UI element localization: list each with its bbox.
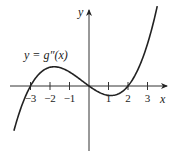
x-tick-label: 2 [125, 92, 131, 104]
x-tick-label: −2 [44, 92, 56, 104]
x-tick-label: 1 [106, 92, 112, 104]
chart: −3−2−1123 x y y = g″(x) [0, 0, 174, 157]
x-axis-label: x [159, 92, 166, 106]
curve-label: y = g″(x) [23, 48, 68, 62]
y-axis-label: y [77, 5, 84, 19]
x-tick-label: 3 [145, 92, 151, 104]
curve-g-double-prime [14, 6, 157, 131]
x-tick-label: −1 [64, 92, 76, 104]
